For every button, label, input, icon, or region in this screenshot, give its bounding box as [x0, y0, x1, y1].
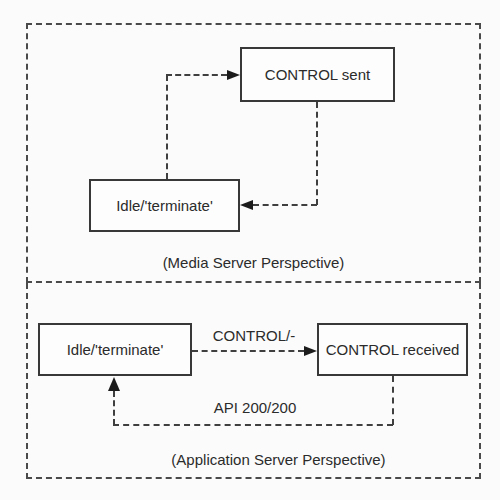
state-box-idle-terminate-media: Idle/'terminate': [89, 179, 240, 232]
transition-idle-to-control-received-segment: [192, 350, 304, 352]
state-box-control-sent: CONTROL sent: [240, 47, 395, 102]
transition-control-received-to-idle-segment: [113, 424, 393, 426]
transition-control-sent-to-idle-segment: [253, 204, 317, 206]
application-server-panel: [26, 283, 481, 479]
transition-control-received-to-idle-segment: [392, 376, 394, 425]
transition-label-api: API 200/200: [190, 400, 320, 417]
transition-idle-to-control-sent-segment: [166, 75, 168, 179]
state-box-idle-terminate-app: Idle/'terminate': [38, 323, 192, 376]
transition-idle-to-control-sent-segment: [166, 74, 227, 76]
arrowhead-up-icon: [108, 377, 120, 391]
arrowhead-right-icon: [227, 70, 240, 80]
transition-control-received-to-idle-segment: [113, 391, 115, 425]
transition-control-sent-to-idle-segment: [316, 102, 318, 205]
state-label-idle-terminate-media: Idle/'terminate': [116, 197, 213, 214]
state-label-control-received: CONTROL received: [326, 341, 460, 358]
arrowhead-left-icon: [240, 200, 253, 210]
state-diagram: CONTROL sent Idle/'terminate' (Media Ser…: [0, 0, 500, 500]
state-label-idle-terminate-app: Idle/'terminate': [67, 341, 164, 358]
panel-caption-app: (Application Server Perspective): [71, 452, 486, 469]
state-box-control-received: CONTROL received: [317, 323, 468, 376]
arrowhead-right-icon: [304, 346, 317, 356]
transition-label-control: CONTROL/-: [189, 328, 319, 345]
state-label-control-sent: CONTROL sent: [265, 66, 370, 83]
panel-caption-media: (Media Server Perspective): [26, 255, 481, 272]
